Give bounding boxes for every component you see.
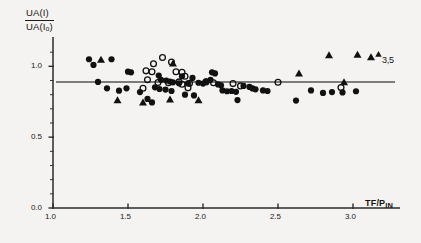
y-axis-tick-label: 0.5: [31, 132, 42, 141]
data-point-filled-circle: [156, 86, 162, 92]
data-point-filled-circle: [329, 89, 335, 95]
y-axis-tick-label: 1.0: [31, 61, 42, 70]
x-axis-tick-label: 2.0: [195, 212, 206, 221]
data-point-filled-circle: [182, 92, 188, 98]
data-point-filled-circle: [108, 56, 114, 62]
y-axis-denominator-subscript: o: [45, 25, 49, 32]
data-point-filled-circle: [233, 89, 239, 95]
data-point-filled-circle: [353, 88, 359, 94]
y-axis-numerator-arg: (I): [40, 7, 49, 18]
y-axis-numerator-symbol: UA: [26, 7, 40, 18]
x-axis-tick-label: 1.5: [120, 212, 131, 221]
data-point-filled-circle: [116, 88, 122, 94]
scatter-plot-figure: [0, 0, 421, 243]
data-point-filled-circle: [128, 69, 134, 75]
y-axis-label: UA(I) UA(Io): [25, 8, 54, 33]
x-axis-tick-label: 1.0: [45, 212, 56, 221]
x-axis-tick-label: 2.5: [270, 212, 281, 221]
plot-background: [0, 0, 421, 243]
y-axis-label-denominator: UA(Io): [25, 21, 54, 33]
x-axis-label: TF/PIN: [365, 198, 393, 208]
data-point-filled-circle: [308, 87, 314, 93]
data-point-filled-circle: [162, 86, 168, 92]
data-point-filled-circle: [123, 85, 129, 91]
x-axis-label-subscript: IN: [385, 201, 393, 210]
data-point-filled-circle: [149, 99, 155, 105]
data-point-filled-circle: [234, 97, 240, 103]
x-axis-label-main: TF/P: [365, 198, 385, 208]
data-point-filled-circle: [293, 98, 299, 104]
data-point-filled-circle: [212, 70, 218, 76]
data-point-filled-circle: [168, 88, 174, 94]
data-point-filled-circle: [320, 90, 326, 96]
data-point-filled-circle: [95, 79, 101, 85]
y-axis-denominator-close: ): [50, 21, 53, 32]
data-point-filled-circle: [86, 56, 92, 62]
data-point-filled-circle: [191, 92, 197, 98]
x-axis-tick-label: 3.0: [345, 212, 356, 221]
y-axis-label-numerator: UA(I): [25, 8, 54, 21]
data-point-filled-circle: [252, 86, 258, 92]
annotation-value: 3,5: [382, 55, 394, 65]
data-point-filled-circle: [104, 85, 110, 91]
annotation-label: 3,5: [382, 55, 394, 65]
y-axis-tick-label: 0.0: [31, 203, 42, 212]
data-point-filled-circle: [264, 88, 270, 94]
data-point-filled-circle: [90, 62, 96, 68]
y-axis-denominator-symbol: UA: [26, 21, 40, 32]
